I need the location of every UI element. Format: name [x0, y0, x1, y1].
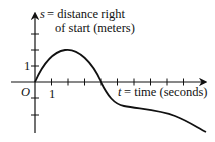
- t-tick-label-1: 1: [49, 87, 55, 101]
- s-axis-label-line2: of start (meters): [55, 21, 135, 35]
- t-variable-label: t: [118, 85, 122, 99]
- s-axis-label-line1: = distance right: [47, 7, 125, 21]
- position-time-graph: s = distance right of start (meters) 1 1…: [0, 0, 215, 142]
- t-axis-label: = time (seconds): [124, 85, 207, 99]
- s-variable-label: s: [40, 7, 45, 21]
- origin-label: O: [21, 85, 30, 99]
- s-tick-label-1: 1: [24, 59, 30, 73]
